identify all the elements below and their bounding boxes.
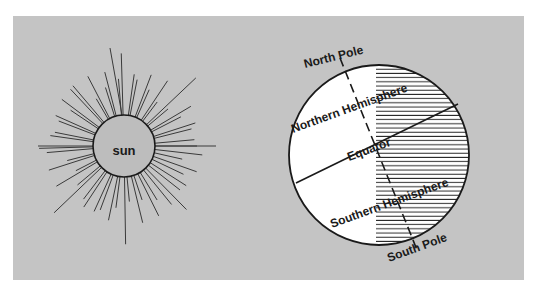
north-pole-label: North Pole [302,43,365,71]
sun-earth-diagram: sun North Pole Northern Hemisphere Equat… [0,0,534,296]
sun: sun [93,115,155,177]
sun-label: sun [112,143,135,158]
earth: North Pole Northern Hemisphere Equator S… [289,43,486,265]
